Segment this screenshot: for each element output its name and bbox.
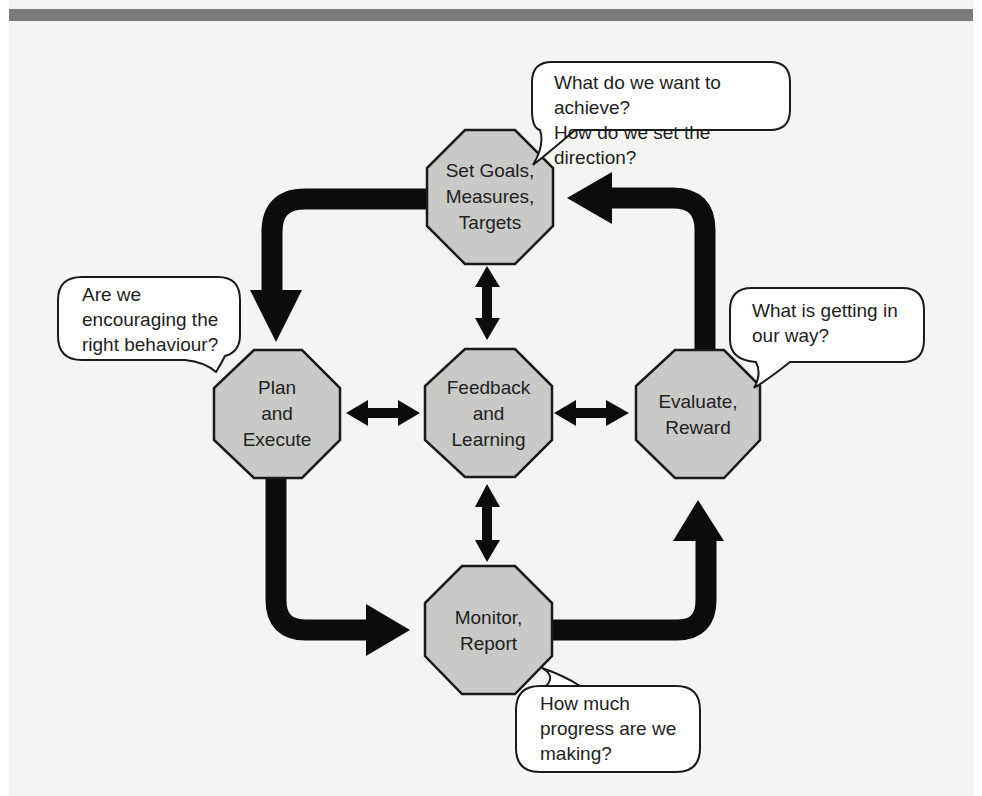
arrow-set-goals-to-plan — [250, 199, 428, 342]
double-arrow-feedback-set-goals — [475, 266, 500, 340]
arrow-monitor-to-evaluate — [552, 500, 724, 630]
bubble-set-goals-text: What do we want to achieve? How do we se… — [554, 70, 786, 170]
double-arrow-feedback-plan — [346, 400, 420, 426]
bubble-evaluate-text: What is getting in our way? — [752, 298, 922, 348]
bubble-monitor-text: How much progress are we making? — [540, 691, 698, 766]
node-feedback-learning-label: Feedback and Learning — [425, 375, 552, 453]
arrow-plan-to-monitor — [276, 475, 410, 656]
double-arrow-feedback-evaluate — [554, 400, 629, 426]
node-plan-execute-label: Plan and Execute — [214, 375, 340, 453]
node-set-goals-label: Set Goals, Measures, Targets — [427, 158, 553, 236]
bubble-plan-text: Are we encouraging the right behaviour? — [82, 282, 238, 357]
node-evaluate-reward-label: Evaluate, Reward — [636, 389, 760, 441]
node-monitor-report-label: Monitor, Report — [425, 605, 552, 657]
double-arrow-feedback-monitor — [475, 484, 500, 562]
arrow-evaluate-to-set-goals — [567, 172, 705, 355]
